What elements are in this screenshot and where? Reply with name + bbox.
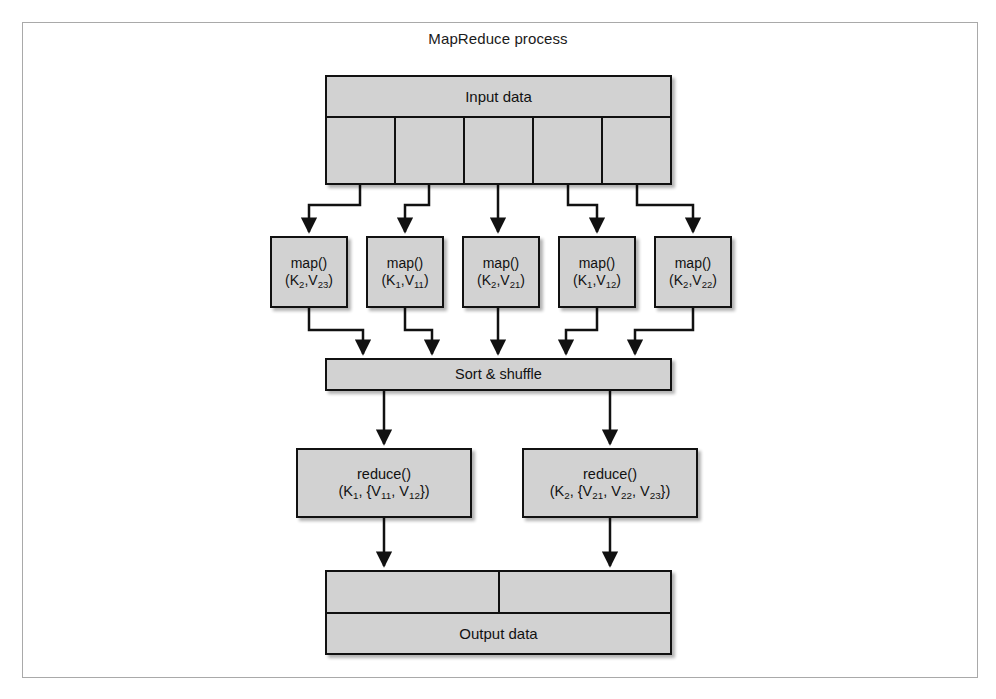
connector-map-3-to-sort bbox=[566, 308, 597, 354]
reduce-args-label: (K1, {V11, V12}) bbox=[338, 483, 429, 500]
reduce-args-label: (K2, {V21, V22, V23}) bbox=[550, 483, 671, 500]
input-split-cell bbox=[465, 118, 534, 183]
map-args-label: (K2,V23) bbox=[285, 272, 333, 289]
map-fn-label: map() bbox=[669, 255, 717, 272]
input-split-cell bbox=[327, 118, 396, 183]
connector-map-4-to-sort bbox=[635, 308, 693, 354]
mapreduce-figure: MapReduce process bbox=[0, 0, 996, 699]
map-args-label: (K1,V12) bbox=[573, 272, 621, 289]
output-data-block: Output data bbox=[325, 570, 672, 655]
map-args-label: (K2,V21) bbox=[477, 272, 525, 289]
input-split-cell bbox=[534, 118, 603, 183]
output-split-row bbox=[327, 572, 670, 614]
reduce-node: reduce() (K2, {V21, V22, V23}) bbox=[522, 448, 698, 518]
reduce-fn-label: reduce() bbox=[550, 466, 671, 483]
connector-input-3-to-map-3 bbox=[568, 185, 597, 232]
map-node: map() (K1,V11) bbox=[366, 236, 444, 308]
connector-input-0-to-map-0 bbox=[309, 185, 360, 232]
connector-input-4-to-map-4 bbox=[637, 185, 693, 232]
map-node: map() (K2,V21) bbox=[462, 236, 540, 308]
map-fn-label: map() bbox=[381, 255, 428, 272]
input-split-cell bbox=[603, 118, 670, 183]
input-split-cell bbox=[396, 118, 465, 183]
input-split-row bbox=[327, 118, 670, 183]
output-split-cell bbox=[327, 572, 500, 612]
map-node: map() (K2,V22) bbox=[654, 236, 732, 308]
map-fn-label: map() bbox=[285, 255, 333, 272]
reduce-fn-label: reduce() bbox=[338, 466, 429, 483]
sort-shuffle-node: Sort & shuffle bbox=[325, 358, 672, 391]
connector-map-0-to-sort bbox=[309, 308, 363, 354]
output-data-label: Output data bbox=[327, 614, 670, 653]
map-fn-label: map() bbox=[477, 255, 525, 272]
map-fn-label: map() bbox=[573, 255, 621, 272]
map-args-label: (K2,V22) bbox=[669, 272, 717, 289]
reduce-node: reduce() (K1, {V11, V12}) bbox=[296, 448, 472, 518]
input-data-label: Input data bbox=[327, 77, 670, 118]
map-args-label: (K1,V11) bbox=[381, 272, 428, 289]
connector-input-1-to-map-1 bbox=[405, 185, 429, 232]
map-node: map() (K2,V23) bbox=[270, 236, 348, 308]
input-data-block: Input data bbox=[325, 75, 672, 185]
map-node: map() (K1,V12) bbox=[558, 236, 636, 308]
connector-map-1-to-sort bbox=[405, 308, 432, 354]
output-split-cell bbox=[500, 572, 671, 612]
sort-shuffle-label: Sort & shuffle bbox=[455, 366, 542, 383]
